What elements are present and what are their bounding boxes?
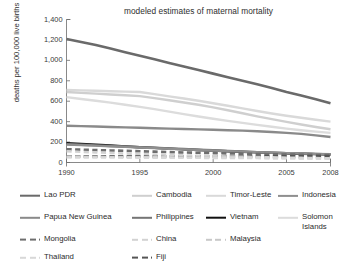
legend-item-mongolia[interactable]: Mongolia: [20, 234, 76, 244]
legend-line-swatch: [132, 213, 152, 222]
legend-line-swatch: [20, 235, 40, 244]
legend-line-swatch: [278, 213, 298, 222]
legend-label: Thailand: [44, 252, 74, 262]
legend-line-swatch: [20, 213, 40, 222]
legend-item-indonesia[interactable]: Indonesia: [278, 190, 336, 200]
legend-line-swatch: [132, 191, 152, 200]
series-line-papua-new-guinea: [67, 126, 331, 137]
legend-line-swatch: [132, 235, 152, 244]
data-series-group: [67, 39, 331, 159]
legend-line-swatch: [20, 253, 40, 262]
legend-line-swatch: [206, 191, 226, 200]
legend-item-lao-pdr[interactable]: Lao PDR: [20, 190, 76, 200]
legend-item-fiji[interactable]: Fiji: [132, 252, 166, 262]
legend-label: Timor-Leste: [230, 190, 271, 200]
legend-item-philippines[interactable]: Philippines: [132, 212, 194, 222]
legend-label: Papua New Guinea: [44, 212, 112, 222]
legend-label: China: [156, 234, 176, 244]
legend-line-swatch: [206, 235, 226, 244]
chart-legend: Lao PDRCambodiaTimor-LesteIndonesiaPapua…: [20, 190, 344, 270]
legend-label: Vietnam: [230, 212, 258, 222]
legend-label: Malaysia: [230, 234, 261, 244]
chart-figure: modeled estimates of maternal mortality …: [0, 0, 348, 272]
series-line-cambodia: [67, 92, 331, 129]
legend-item-china[interactable]: China: [132, 234, 176, 244]
legend-item-cambodia[interactable]: Cambodia: [132, 190, 192, 200]
legend-label: Lao PDR: [44, 190, 76, 200]
legend-line-swatch: [206, 213, 226, 222]
legend-label: Cambodia: [156, 190, 192, 200]
legend-label: Fiji: [156, 252, 166, 262]
legend-item-vietnam[interactable]: Vietnam: [206, 212, 258, 222]
legend-item-papua-new-guinea[interactable]: Papua New Guinea: [20, 212, 112, 222]
legend-label: Indonesia: [302, 190, 336, 200]
legend-line-swatch: [278, 191, 298, 200]
legend-item-malaysia[interactable]: Malaysia: [206, 234, 261, 244]
legend-label: Solomon Islands: [302, 212, 333, 231]
legend-item-solomon-islands[interactable]: Solomon Islands: [278, 212, 333, 231]
legend-label: Philippines: [156, 212, 194, 222]
legend-item-timor-leste[interactable]: Timor-Leste: [206, 190, 271, 200]
legend-label: Mongolia: [44, 234, 76, 244]
legend-line-swatch: [20, 191, 40, 200]
legend-item-thailand[interactable]: Thailand: [20, 252, 74, 262]
legend-line-swatch: [132, 253, 152, 262]
